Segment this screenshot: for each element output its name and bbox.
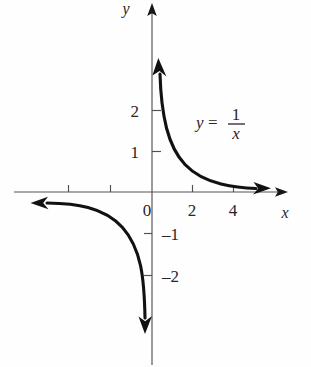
y-tick-label-minus-2: –2: [161, 267, 179, 286]
equation-equals-sign: =: [208, 113, 218, 132]
equation-annotation: y = 1 x: [194, 105, 245, 143]
x-tick-label-4: 4: [229, 201, 238, 220]
y-tick-label-1: 1: [131, 143, 140, 162]
function-plot: y x 0 2 4 2 1 –1 –2 y = 1 x: [0, 0, 311, 367]
graph-figure: y x 0 2 4 2 1 –1 –2 y = 1 x: [0, 0, 311, 367]
equation-numerator: 1: [232, 105, 241, 124]
hyperbola-negative-branch: [47, 203, 145, 318]
y-axis-label: y: [120, 0, 130, 18]
x-tick-label-2: 2: [188, 201, 197, 220]
curve-branch-quadrant-3: [31, 197, 153, 334]
y-tick-label-2: 2: [131, 102, 140, 121]
y-tick-label-minus-1: –1: [161, 225, 179, 244]
equation-denominator: x: [231, 124, 240, 143]
x-axis-ticks: [69, 185, 234, 192]
x-axis-label: x: [280, 204, 288, 221]
equation-lhs: y: [194, 113, 204, 132]
y-axis: [147, 3, 157, 365]
origin-label: 0: [143, 201, 152, 220]
